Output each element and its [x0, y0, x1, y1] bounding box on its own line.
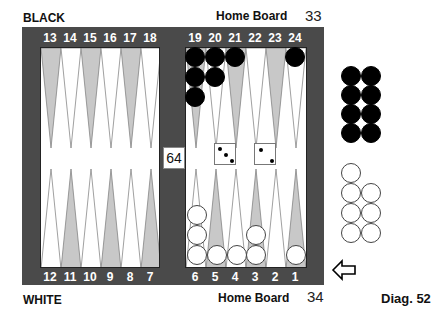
white-checker-point-5[interactable] [207, 245, 227, 265]
turn-arrow-icon [331, 259, 357, 281]
die-pip [230, 159, 234, 163]
white-checker-point-4[interactable] [227, 245, 247, 265]
black-checker-point-20[interactable] [205, 67, 225, 87]
point-label-16: 16 [100, 31, 120, 45]
black-checker-point-20[interactable] [205, 47, 225, 67]
white-off-checker [361, 183, 381, 203]
black-pipcount: 33 [305, 7, 322, 24]
white-off-checker [361, 203, 381, 223]
black-off-checker [361, 104, 381, 124]
black-checker-point-19[interactable] [185, 47, 205, 67]
white-off-checker [361, 223, 381, 243]
black-off-checker [341, 104, 361, 124]
white-checker-point-1[interactable] [286, 245, 306, 265]
point-label-10: 10 [80, 270, 100, 284]
bottom-player-label: WHITE [23, 293, 62, 307]
point-label-18: 18 [140, 31, 160, 45]
die-pip [224, 153, 228, 157]
black-checker-point-19[interactable] [185, 67, 205, 87]
doubling-cube[interactable]: 64 [163, 147, 185, 169]
top-home-board-label: Home Board [216, 9, 287, 23]
point-label-15: 15 [80, 31, 100, 45]
point-label-4: 4 [225, 270, 245, 284]
point-label-17: 17 [120, 31, 140, 45]
point-label-22: 22 [245, 31, 265, 45]
white-checker-point-3[interactable] [246, 245, 266, 265]
point-label-5: 5 [205, 270, 225, 284]
point-label-8: 8 [120, 270, 140, 284]
black-checker-point-19[interactable] [185, 87, 205, 107]
outer-board-area [40, 47, 160, 268]
point-label-20: 20 [205, 31, 225, 45]
black-off-checker [341, 123, 361, 143]
top-player-label: BLACK [23, 11, 65, 25]
point-label-11: 11 [60, 270, 80, 284]
point-label-6: 6 [185, 270, 205, 284]
white-pipcount: 34 [307, 288, 324, 305]
black-checker-point-21[interactable] [225, 47, 245, 67]
bottom-home-board-label: Home Board [218, 291, 289, 305]
white-checker-point-6[interactable] [187, 245, 207, 265]
black-off-checker [361, 123, 381, 143]
white-checker-point-3[interactable] [246, 225, 266, 245]
black-off-checker [361, 66, 381, 86]
point-label-19: 19 [185, 31, 205, 45]
black-off-checker [341, 66, 361, 86]
point-label-9: 9 [100, 270, 120, 284]
point-label-2: 2 [265, 270, 285, 284]
point-label-12: 12 [40, 270, 60, 284]
black-off-checker [361, 85, 381, 105]
diagram-label: Diag. 52 [381, 291, 431, 306]
die-pip [270, 159, 274, 163]
white-checker-point-6[interactable] [187, 205, 207, 225]
point-label-24: 24 [285, 31, 305, 45]
point-label-14: 14 [60, 31, 80, 45]
point-label-1: 1 [285, 270, 305, 284]
point-label-7: 7 [140, 270, 160, 284]
white-off-checker [341, 203, 361, 223]
point-label-3: 3 [245, 270, 265, 284]
white-off-checker [341, 183, 361, 203]
outer-board-points [41, 48, 160, 268]
die-pip [218, 147, 222, 151]
point-label-21: 21 [225, 31, 245, 45]
die-pip [259, 148, 263, 152]
white-off-checker [341, 223, 361, 243]
black-checker-point-24[interactable] [285, 47, 305, 67]
die-three [214, 143, 236, 165]
point-label-23: 23 [265, 31, 285, 45]
black-off-checker [341, 85, 361, 105]
white-checker-point-6[interactable] [187, 225, 207, 245]
white-off-checker [341, 163, 361, 183]
die-two [254, 143, 276, 165]
point-label-13: 13 [40, 31, 60, 45]
